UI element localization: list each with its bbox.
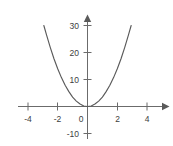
chart-plot-area: -4 -2 2 4 0 30 20 10 -10 bbox=[0, 0, 173, 146]
x-axis-arrow-icon bbox=[162, 103, 170, 110]
y-tick-label-20: 20 bbox=[70, 48, 80, 58]
y-tick-label-30: 30 bbox=[70, 21, 80, 31]
parabola-chart-figure: -4 -2 2 4 0 30 20 10 -10 bbox=[0, 0, 173, 146]
x-tick-label-pos4: 4 bbox=[145, 114, 150, 124]
y-tick-label-10: 10 bbox=[70, 75, 80, 85]
y-tick-label-neg10: -10 bbox=[67, 129, 80, 139]
x-tick-label-neg4: -4 bbox=[24, 114, 32, 124]
x-tick-label-pos2: 2 bbox=[115, 114, 120, 124]
y-axis-arrow-icon bbox=[84, 15, 91, 23]
origin-label: 0 bbox=[79, 114, 84, 124]
x-tick-label-neg2: -2 bbox=[54, 114, 62, 124]
